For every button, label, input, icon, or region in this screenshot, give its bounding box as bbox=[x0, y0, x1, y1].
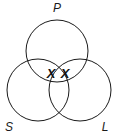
label-p: P bbox=[53, 1, 61, 15]
venn-diagram: P S L X X bbox=[0, 0, 118, 137]
circle-l bbox=[49, 59, 111, 121]
label-l: L bbox=[102, 120, 109, 134]
circle-p bbox=[26, 20, 88, 82]
mark-x-right: X bbox=[60, 66, 71, 81]
label-s: S bbox=[5, 120, 13, 134]
mark-x-left: X bbox=[46, 66, 57, 81]
